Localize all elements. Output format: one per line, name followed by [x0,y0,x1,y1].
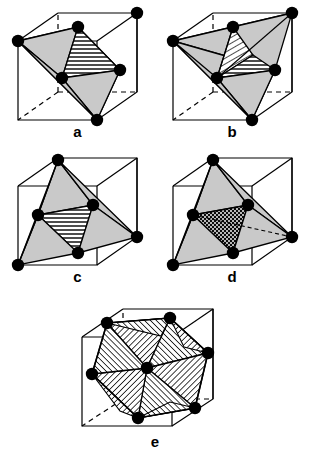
panel-e: e [60,290,250,453]
tetrahedron-a [18,27,120,120]
panel-d: d [155,145,309,290]
panel-c: c [0,145,155,290]
panel-label-a: a [0,124,155,139]
panel-a: a [0,0,155,145]
panel-b: b [155,0,309,145]
panel-label-b: b [155,124,309,139]
panel-label-e: e [60,434,250,449]
panel-label-c: c [0,269,155,284]
panel-label-d: d [155,269,309,284]
panel-e-diagram [60,290,250,453]
figure-canvas: a [0,0,309,453]
